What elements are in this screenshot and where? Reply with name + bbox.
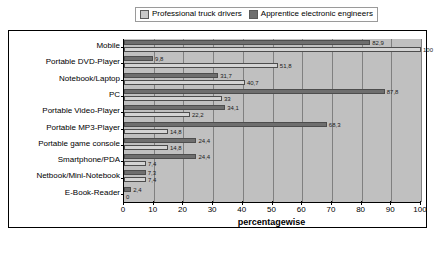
bar-apprentice-electronic-engineers [124,187,131,192]
x-axis-tick-label: 60 [297,205,306,214]
plot-area: Mobile82,9100Portable DVD-Player9,851,8N… [123,39,421,203]
legend-label-apprentice-electronic-engineers: Apprentice electronic engineers [261,9,373,19]
bar-group: E-Book-Reader2,40 [124,186,421,202]
bar-value-label: 9,8 [155,56,163,62]
bar-value-label: 22,2 [192,112,204,118]
bar-value-label: 82,9 [372,40,384,46]
bar-apprentice-electronic-engineers [124,56,153,61]
category-label: PC [8,90,124,99]
bar-group: Notebook/Laptop31,740,7 [124,72,421,88]
x-axis-tick-label: 100 [413,205,426,214]
bar-group: PC87,833 [124,88,421,104]
bar-value-label: 0 [126,194,129,200]
bar-professional-truck-drivers [124,145,168,150]
x-axis-tick-label: 70 [326,205,335,214]
bar-professional-truck-drivers [124,129,168,134]
bar-apprentice-electronic-engineers [124,40,370,45]
bar-value-label: 2,4 [133,187,141,193]
x-axis-tick-labels: 0102030405060708090100 [123,205,420,217]
x-axis-tick-label: 90 [386,205,395,214]
category-label: Portable DVD-Player [8,57,124,66]
bar-value-label: 14,8 [170,129,182,135]
category-label: Smartphone/PDA [8,155,124,164]
bar-value-label: 7,4 [148,177,156,183]
bar-value-label: 24,4 [198,138,210,144]
bar-value-label: 7,4 [148,161,156,167]
bar-value-label: 31,7 [220,73,232,79]
bar-professional-truck-drivers [124,161,146,166]
bar-value-label: 51,8 [280,63,292,69]
bar-rows: Mobile82,9100Portable DVD-Player9,851,8N… [124,39,421,202]
bar-apprentice-electronic-engineers [124,170,146,175]
bar-professional-truck-drivers [124,63,278,68]
category-label: Netbook/Mini-Notebook [8,171,124,180]
legend-entry-professional-truck-drivers: Professional truck drivers [140,9,242,19]
bar-group: Mobile82,9100 [124,39,421,55]
chart-legend: Professional truck drivers Apprentice el… [135,7,378,22]
category-label: Mobile [8,41,124,50]
x-axis-tick-label: 10 [148,205,157,214]
bar-apprentice-electronic-engineers [124,73,218,78]
legend-swatch-icon-apprentice-electronic-engineers [249,10,258,19]
x-axis-title: percentagewise [123,217,420,227]
chart-frame: Mobile82,9100Portable DVD-Player9,851,8N… [8,30,427,228]
bar-apprentice-electronic-engineers [124,105,225,110]
x-axis-tick-label: 30 [208,205,217,214]
x-axis-tick-label: 20 [178,205,187,214]
x-axis-tick-label: 0 [121,205,125,214]
gridline [421,39,422,202]
bar-group: Portable game console24,414,8 [124,137,421,153]
category-label: Portable Video-Player [8,106,124,115]
bar-apprentice-electronic-engineers [124,154,196,159]
x-axis-tick-label: 80 [356,205,365,214]
category-label: Portable game console [8,139,124,148]
x-axis-tick-label: 40 [237,205,246,214]
bar-group: Portable MP3-Player68,314,8 [124,121,421,137]
bar-value-label: 7,3 [148,170,156,176]
category-label: Notebook/Laptop [8,74,124,83]
bar-professional-truck-drivers [124,112,190,117]
bar-apprentice-electronic-engineers [124,89,385,94]
bar-value-label: 14,8 [170,145,182,151]
legend-entry-apprentice-electronic-engineers: Apprentice electronic engineers [249,9,373,19]
bar-professional-truck-drivers [124,80,245,85]
legend-label-professional-truck-drivers: Professional truck drivers [152,9,242,19]
bar-group: Smartphone/PDA24,47,4 [124,153,421,169]
legend-swatch-icon-professional-truck-drivers [140,10,149,19]
category-label: Portable MP3-Player [8,123,124,132]
bar-group: Netbook/Mini-Notebook7,37,4 [124,169,421,185]
bar-value-label: 34,1 [227,105,239,111]
bar-value-label: 33 [224,96,231,102]
x-axis-tick-label: 50 [267,205,276,214]
category-label: E-Book-Reader [8,188,124,197]
bar-apprentice-electronic-engineers [124,122,327,127]
bar-group: Portable DVD-Player9,851,8 [124,55,421,71]
bar-value-label: 100 [423,47,433,53]
bar-value-label: 87,8 [387,89,399,95]
bar-value-label: 24,4 [198,154,210,160]
bar-value-label: 40,7 [247,80,259,86]
bar-value-label: 68,3 [329,122,341,128]
bar-professional-truck-drivers [124,96,222,101]
bar-professional-truck-drivers [124,47,421,52]
bar-apprentice-electronic-engineers [124,138,196,143]
bar-group: Portable Video-Player34,122,2 [124,104,421,120]
bar-professional-truck-drivers [124,177,146,182]
